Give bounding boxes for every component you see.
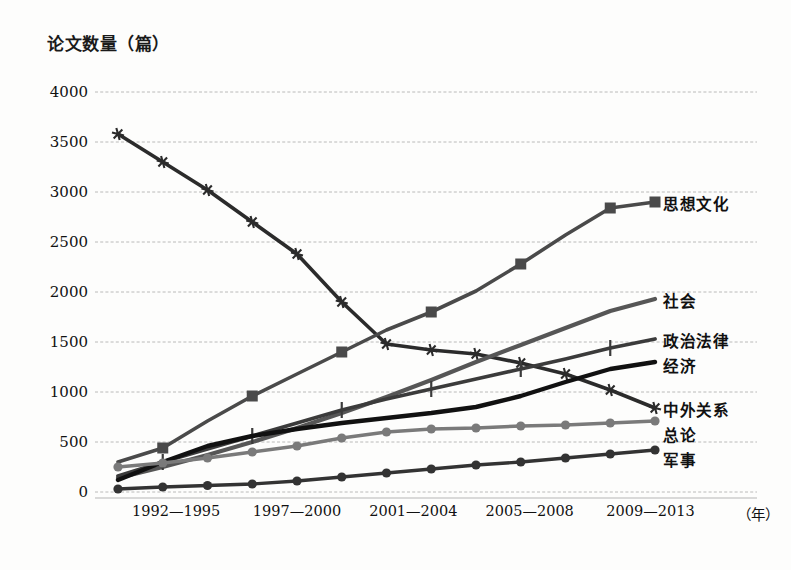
data-point-marker	[247, 391, 258, 402]
data-point-marker	[515, 259, 526, 270]
data-point-marker	[248, 447, 257, 456]
data-point-marker	[158, 458, 167, 467]
data-point-marker	[516, 421, 525, 430]
data-point-marker	[606, 418, 615, 427]
data-point-marker	[248, 479, 257, 488]
data-point-marker	[427, 424, 436, 433]
y-axis-tick-label: 2000	[28, 283, 88, 301]
x-axis-tick-label: 1997—2000	[253, 503, 341, 519]
series-label-军事: 军事	[663, 448, 696, 470]
gridlines	[95, 92, 757, 492]
data-point-marker	[292, 441, 301, 450]
data-point-marker	[604, 384, 616, 396]
data-point-marker	[561, 453, 570, 462]
data-point-marker	[337, 472, 346, 481]
x-axis-tick-label: 1992—1995	[132, 503, 220, 519]
series-layer	[112, 128, 661, 494]
data-point-marker	[337, 433, 346, 442]
data-point-marker	[292, 476, 301, 485]
chart-page: 论文数量（篇） 05001000150020002500300035004000…	[0, 0, 791, 570]
data-point-marker	[649, 402, 661, 414]
data-point-marker	[471, 460, 480, 469]
y-axis-tick-label: 3000	[28, 183, 88, 201]
series-label-总论: 总论	[663, 423, 696, 445]
y-axis-tick-label: 1500	[28, 333, 88, 351]
x-axis-tick-label: 2005—2008	[486, 503, 574, 519]
data-point-marker	[382, 427, 391, 436]
series-label-中外关系: 中外关系	[663, 398, 729, 420]
data-point-marker	[157, 443, 168, 454]
y-axis-tick-label: 3500	[28, 133, 88, 151]
data-point-marker	[516, 457, 525, 466]
x-axis-tick-label: 2009—2013	[606, 503, 694, 519]
data-point-marker	[427, 464, 436, 473]
data-point-marker	[113, 484, 122, 493]
y-axis-tick-label: 4000	[28, 83, 88, 101]
series-label-社会: 社会	[663, 289, 696, 311]
y-axis-tick-label: 2500	[28, 233, 88, 251]
x-axis-unit-label: （年）	[737, 503, 779, 524]
y-axis-tick-label: 1000	[28, 383, 88, 401]
data-point-marker	[650, 197, 661, 208]
data-point-marker	[382, 468, 391, 477]
data-point-marker	[650, 445, 659, 454]
data-point-marker	[559, 368, 571, 380]
data-point-marker	[605, 203, 616, 214]
series-5	[113, 416, 659, 471]
series-label-经济: 经济	[663, 354, 696, 376]
series-label-思想文化: 思想文化	[663, 192, 729, 214]
data-point-marker	[158, 482, 167, 491]
series-line	[118, 362, 655, 480]
data-point-marker	[606, 449, 615, 458]
data-point-marker	[203, 481, 212, 490]
data-point-marker	[113, 462, 122, 471]
series-0	[112, 128, 661, 414]
data-point-marker	[561, 420, 570, 429]
chart-canvas	[0, 0, 791, 570]
series-4	[118, 362, 655, 480]
data-point-marker	[336, 347, 347, 358]
data-point-marker	[203, 453, 212, 462]
y-axis-tick-label: 0	[28, 483, 88, 501]
data-point-marker	[426, 307, 437, 318]
series-line	[118, 134, 655, 408]
data-point-marker	[425, 344, 437, 356]
x-axis-tick-label: 2001—2004	[369, 503, 457, 519]
series-1	[118, 197, 661, 463]
data-point-marker	[650, 416, 659, 425]
y-axis-tick-label: 500	[28, 433, 88, 451]
data-point-marker	[471, 423, 480, 432]
series-label-政治法律: 政治法律	[663, 329, 729, 351]
